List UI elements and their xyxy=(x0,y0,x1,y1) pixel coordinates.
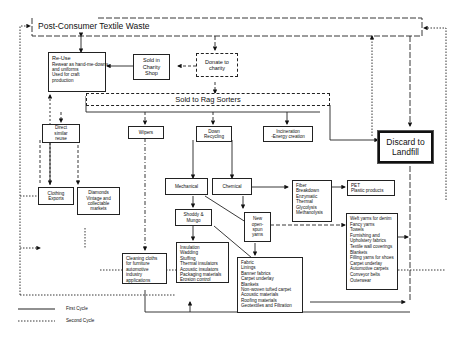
yarn-product-line: Weft yarns for denim xyxy=(350,216,394,222)
node-reuse: Re-Use Rewear as hand-me-downs and unifo… xyxy=(48,52,106,92)
sold-charity-line: Shop xyxy=(145,70,158,77)
discard-line: Landfill xyxy=(392,147,419,157)
diagram-title: Post-Consumer Textile Waste xyxy=(38,21,149,31)
node-chemical: Chemical xyxy=(212,178,252,195)
new-yarns-line: yarns xyxy=(252,232,263,237)
cleaning-line: applications xyxy=(126,278,163,283)
shoddy-line: Mungo xyxy=(186,218,200,223)
down-recycling-line: Recycling xyxy=(204,134,224,139)
pet-line: Plastic products xyxy=(351,188,391,193)
fabric-line: Geotextiles and Filtration xyxy=(241,303,299,308)
clothing-exports-line: Exports xyxy=(48,196,64,201)
node-wipers: Wipers xyxy=(128,126,164,139)
yarn-product-line: Textile wall coverings xyxy=(350,244,394,250)
mechanical-label: Mechanical xyxy=(175,184,198,189)
wipers-label: Wipers xyxy=(139,130,153,135)
discard-line: Discard to xyxy=(386,137,424,147)
node-pet-plastic: PET Plastic products xyxy=(347,180,395,196)
rag-sorters-label: Sold to Rag Sorters xyxy=(175,97,240,102)
node-mechanical: Mechanical xyxy=(165,178,208,195)
node-fibre-breakdown: Fiber Breakdown Enzymatic Thermal Glycol… xyxy=(292,180,332,222)
node-yarn-products: Weft yarns for denim Fancy yarns Towels … xyxy=(346,213,398,290)
legend-first-cycle: First Cycle xyxy=(66,306,88,311)
node-rag-sorters: Sold to Rag Sorters xyxy=(86,93,330,106)
node-donate-charity: Donate to charity xyxy=(196,53,238,77)
node-diamonds: Diamonds Vintage and collectable markets xyxy=(77,187,120,215)
yarn-product-line: Outerwear xyxy=(350,278,394,284)
node-down-recycling: Down Recycling xyxy=(196,126,232,142)
node-fabric: Fabric Linings Banner fabrics Carpet und… xyxy=(237,257,303,313)
incineration-line: -Energy creation xyxy=(271,134,305,139)
node-sold-charity-shop: Sold in Charity Shop xyxy=(133,54,170,80)
node-cleaning-cloths: Cleaning cloths for furniture automotive… xyxy=(122,253,167,284)
yarn-product-line: Filling yarns for shoes xyxy=(350,255,394,261)
diamonds-line: markets xyxy=(90,206,106,211)
legend-second-cycle: Second Cycle xyxy=(66,318,94,323)
node-incineration: Incineration -Energy creation xyxy=(263,126,313,142)
node-insulation: Insulation Wadding Stuffing Thermal insu… xyxy=(176,242,229,283)
direct-reuse-line: reuse xyxy=(55,136,67,141)
donate-line: charity xyxy=(209,65,225,72)
reuse-line: production xyxy=(52,78,102,83)
node-shoddy-mungo: Shoddy & Mungo xyxy=(175,209,212,226)
node-clothing-exports: Clothing Exports xyxy=(38,187,74,205)
chemical-label: Chemical xyxy=(222,184,241,189)
insulation-line: Erosion control xyxy=(180,277,225,282)
node-new-yarns: New open- spun yarns xyxy=(244,212,271,242)
node-direct-reuse: Direct similar reuse xyxy=(42,124,80,143)
node-discard-landfill: Discard to Landfill xyxy=(378,131,433,163)
fibre-line: Methanolysis xyxy=(296,210,328,215)
